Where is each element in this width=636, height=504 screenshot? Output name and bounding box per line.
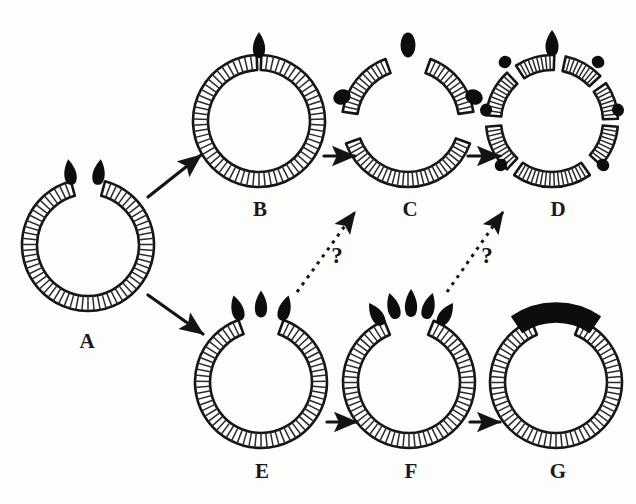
panel-label-a: A bbox=[72, 331, 102, 352]
panel-label-c: C bbox=[395, 199, 425, 220]
ring-segment bbox=[21, 181, 156, 312]
fused-black-cap bbox=[512, 303, 600, 332]
black-teardrop bbox=[255, 291, 267, 318]
segment-outline bbox=[22, 181, 154, 311]
ring-segment bbox=[489, 321, 624, 450]
black-element-shape bbox=[276, 294, 295, 322]
black-element-shape bbox=[383, 291, 402, 320]
black-element-shape bbox=[496, 53, 514, 70]
black-teardrop bbox=[545, 30, 558, 56]
ring-segment bbox=[342, 59, 390, 114]
black-oval bbox=[401, 33, 416, 58]
panel-label-e: E bbox=[247, 461, 277, 482]
black-teardrop bbox=[383, 291, 402, 320]
ring-segment bbox=[514, 163, 590, 189]
question-mark-q2: ? bbox=[478, 244, 496, 267]
panel-label-f: F bbox=[396, 461, 426, 482]
diagram-svg bbox=[0, 0, 636, 504]
black-oval bbox=[496, 53, 514, 70]
black-element-shape bbox=[401, 33, 416, 58]
black-teardrop bbox=[253, 32, 265, 58]
arrow-a-to-b bbox=[148, 155, 201, 197]
panel-label-g: G bbox=[543, 461, 573, 482]
black-element-shape bbox=[405, 289, 417, 317]
black-element-shape bbox=[62, 158, 78, 185]
black-element-shape bbox=[419, 291, 438, 320]
ring-segment bbox=[346, 138, 470, 188]
ring-segment bbox=[192, 54, 327, 188]
panel-label-d: D bbox=[543, 199, 573, 220]
question-mark-q1: ? bbox=[328, 244, 346, 267]
ring-segments-layer bbox=[21, 54, 624, 450]
black-teardrop bbox=[405, 289, 417, 317]
black-teardrop bbox=[228, 294, 247, 322]
panel-label-b: B bbox=[245, 199, 275, 220]
ring-segment bbox=[516, 54, 554, 79]
arrow-a-to-e bbox=[148, 295, 203, 334]
black-element-shape bbox=[253, 32, 265, 58]
black-teardrop bbox=[276, 294, 295, 322]
figure-canvas: ABCDEFG ?? bbox=[0, 0, 636, 504]
black-element-shape bbox=[228, 294, 247, 322]
arrow-e-to-c-unknown bbox=[297, 212, 355, 292]
black-teardrop bbox=[62, 158, 78, 185]
ring-segment bbox=[342, 321, 477, 450]
ring-segment bbox=[425, 59, 473, 114]
black-element-shape bbox=[545, 30, 558, 56]
black-element-shape bbox=[255, 291, 267, 318]
black-teardrop bbox=[419, 291, 438, 320]
ring-segment bbox=[194, 320, 329, 450]
